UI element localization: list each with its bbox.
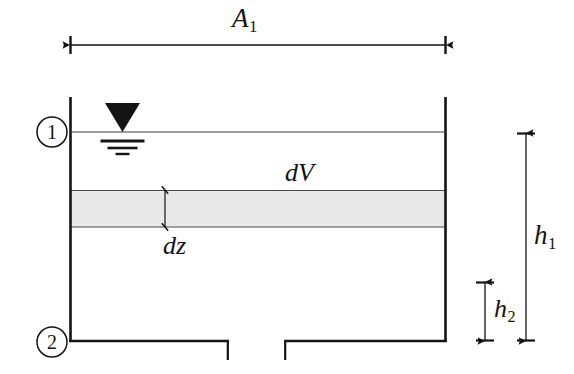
- label-differential-height: dz: [163, 233, 186, 259]
- label-differential-volume-symbol: dV: [285, 158, 314, 187]
- label-area-a1-symbol: A: [232, 3, 249, 33]
- station-two-label: 2: [35, 325, 69, 359]
- label-head-h1-symbol: h: [534, 220, 548, 250]
- label-head-h2-subscript: 2: [508, 308, 516, 325]
- differential-volume-band: [70, 190, 446, 227]
- label-differential-height-symbol: dz: [163, 231, 186, 260]
- free-surface-level-symbol: [101, 103, 145, 154]
- label-area-a1: A1: [232, 5, 257, 32]
- station-one-label: 1: [35, 115, 69, 149]
- dimension-line-h1: [517, 133, 535, 341]
- tank-diagram: A1 dV dz h1 h2 1 2: [0, 0, 574, 374]
- label-head-h2: h2: [494, 296, 516, 322]
- label-area-a1-subscript: 1: [249, 17, 257, 36]
- water-level-triangle-icon: [105, 103, 140, 132]
- label-head-h1: h1: [534, 222, 556, 249]
- dimension-line-area-a1: [70, 36, 446, 54]
- tank-bottom: [69, 341, 447, 360]
- label-head-h2-symbol: h: [494, 294, 507, 323]
- diagram-canvas: [0, 0, 574, 374]
- label-head-h1-subscript: 1: [548, 234, 556, 253]
- dimension-line-h2: [476, 282, 494, 341]
- label-differential-volume: dV: [285, 160, 314, 186]
